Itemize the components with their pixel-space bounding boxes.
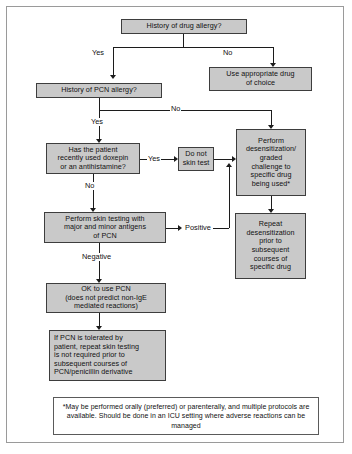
edge-label-no-doxepin: No	[84, 182, 95, 190]
edge-positive-out	[166, 228, 178, 229]
edge-do-not-skin-test-out	[214, 159, 232, 160]
edge-drug-allergy-bus	[113, 47, 273, 48]
node-history-of-drug-allergy: History of drug allergy?	[121, 19, 247, 34]
edge-yes-drug-allergy-drop	[113, 47, 114, 75]
edge-label-no-pcn-allergy: No	[170, 105, 181, 113]
edge-no-doxepin-drop	[93, 174, 94, 208]
edge-negative-drop	[99, 243, 100, 279]
arrow-into-do-not-skin-test	[174, 156, 178, 162]
flowchart-page: History of drug allergy? Use appropriate…	[0, 0, 352, 454]
edge-no-pcn-allergy-drop	[271, 110, 272, 125]
arrow-into-perform-skin-testing	[90, 208, 96, 212]
arrow-skin-test-to-desensitization	[232, 156, 236, 162]
node-repeat-desensitization: Repeat desensitization prior to subseque…	[235, 213, 306, 279]
edge-label-positive: Positive	[184, 224, 212, 232]
arrow-into-pcn-tolerated	[96, 326, 102, 330]
edge-label-yes-doxepin: Yes	[147, 155, 161, 163]
edge-ok-to-tolerated	[99, 313, 100, 326]
arrow-into-repeat-desensitization	[268, 209, 274, 213]
edge-positive-riser	[229, 167, 230, 228]
arrow-into-pcn-allergy	[110, 75, 116, 79]
node-history-of-pcn-allergy: History of PCN allergy?	[36, 83, 162, 98]
edge-no-drug-allergy-drop	[273, 47, 274, 63]
edge-pcn-allergy-stem	[99, 98, 100, 110]
node-use-appropriate-drug: Use appropriate drug of choice	[209, 67, 312, 91]
node-ok-to-use-pcn: OK to use PCN (does not predict non-IgE …	[46, 283, 166, 313]
diagram-frame: History of drug allergy? Use appropriate…	[6, 6, 344, 443]
edge-label-negative: Negative	[81, 253, 112, 261]
node-pcn-tolerated: If PCN is tolerated by patient, repeat s…	[49, 330, 166, 381]
edge-positive-run	[213, 228, 229, 229]
arrow-positive-label	[178, 225, 182, 231]
arrow-into-perform-desensitization	[268, 125, 274, 129]
arrow-into-use-appropriate-drug	[270, 63, 276, 67]
node-footnote: *May be performed orally (preferred) or …	[53, 397, 319, 435]
arrow-into-doxepin-question	[96, 139, 102, 143]
edge-pcn-allergy-bus	[99, 110, 271, 111]
arrow-positive-into-desensitization-line	[226, 163, 232, 167]
node-perform-desensitization: Perform desensitization/ graded challeng…	[236, 129, 306, 196]
edge-drug-allergy-stem	[183, 34, 184, 47]
edge-label-yes-pcn-allergy: Yes	[90, 118, 104, 126]
edge-label-yes-drug-allergy: Yes	[91, 49, 105, 57]
node-do-not-skin-test: Do not skin test	[178, 147, 214, 171]
arrow-into-ok-to-use-pcn	[96, 279, 102, 283]
node-doxepin-antihistamine-question: Has the patient recently used doxepin or…	[46, 143, 140, 174]
edge-label-no-drug-allergy: No	[222, 49, 233, 57]
edge-desensitization-to-repeat	[271, 196, 272, 209]
node-perform-skin-testing: Perform skin testing with major and mino…	[44, 212, 166, 243]
